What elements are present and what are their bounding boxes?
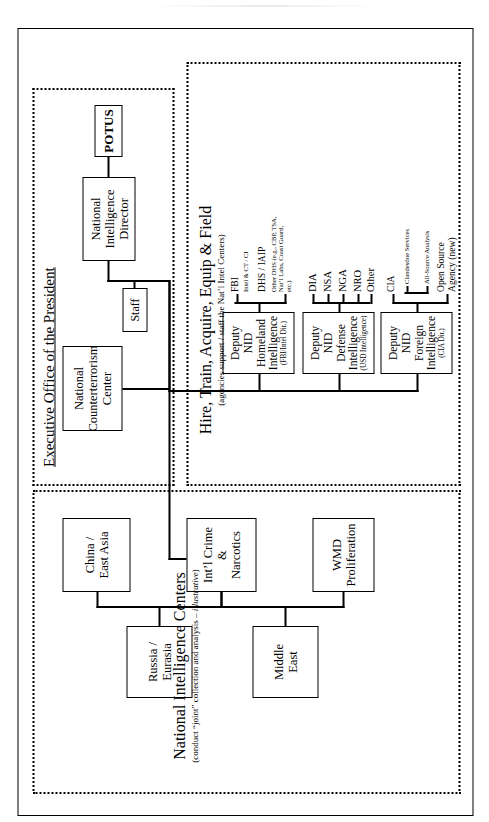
executive-office-title: Executive Office of the President xyxy=(40,267,57,467)
agencies-section-title: Hire, Train, Acquire, Equip & Field (age… xyxy=(196,170,225,470)
middle-east-label: Middle East xyxy=(271,644,299,680)
nic-title-text: National Intelligence Centers xyxy=(170,572,187,759)
center-box-middle-east[interactable]: Middle East xyxy=(252,626,318,698)
deputy-defense-label: Deputy NID Defense Intelligence (USD Int… xyxy=(308,315,368,371)
deputy-branch-homeland xyxy=(258,374,260,392)
dia-stub xyxy=(312,294,314,304)
nic-branch-crime xyxy=(220,592,222,608)
deputy-nid-foreign-intelligence-box[interactable]: Deputy NID Foreign Intelligence (CIA Dir… xyxy=(380,312,452,374)
all-source-stub xyxy=(426,286,428,294)
agency-label-nro[interactable]: NRO xyxy=(351,270,362,292)
agency-label-dhs-iaip[interactable]: DHS / IAIP xyxy=(256,247,266,292)
fbi-stub xyxy=(236,294,238,304)
nctc-label: National Counterterrorism Center xyxy=(71,345,113,431)
agency-label-nsa[interactable]: NSA xyxy=(321,271,332,292)
deputy-branch-foreign xyxy=(416,374,418,392)
agencies-subtitle: (agencies support / staff the Nat’l Inte… xyxy=(215,170,225,470)
agency-label-open-source-agency[interactable]: Open Source Agency (new) xyxy=(434,237,456,292)
russia-label: Russia / Eurasia xyxy=(145,642,173,682)
agency-label-dia[interactable]: DIA xyxy=(306,273,317,292)
chart-canvas: Executive Office of the President POTUS … xyxy=(0,0,489,822)
agency-label-clandestine-services[interactable]: Clandestine Services xyxy=(402,192,409,284)
potus-box[interactable]: POTUS xyxy=(94,105,122,157)
nic-subtitle: (conduct “joint” collection and analysis… xyxy=(189,546,199,786)
defense-bus-feed xyxy=(338,303,340,312)
nctc-connector xyxy=(121,388,169,390)
nro-stub xyxy=(357,294,359,304)
deputy-branch-defense xyxy=(338,374,340,392)
nctc-box[interactable]: National Counterterrorism Center xyxy=(62,346,122,431)
nic-branch-middle-east xyxy=(284,606,286,626)
china-label: China / East Asia xyxy=(82,532,110,579)
nid-trunk-drop xyxy=(107,280,169,282)
center-box-wmd-proliferation[interactable]: WMD Proliferation xyxy=(312,518,374,592)
agency-label-nga[interactable]: NGA xyxy=(336,269,347,292)
agency-detail-dhs: Other DHS (e.g., CBP, TSA, Nat’l Labs, C… xyxy=(269,214,291,292)
dhs-stub xyxy=(284,294,286,304)
agencies-title-text: Hire, Train, Acquire, Equip & Field xyxy=(196,206,213,434)
nic-branch-wmd xyxy=(342,592,344,608)
agency-label-defense-other[interactable]: Other xyxy=(364,268,375,292)
defense-children-bus xyxy=(312,303,370,305)
national-intelligence-centers-title: National Intelligence Centers (conduct “… xyxy=(170,546,199,786)
nsa-stub xyxy=(327,294,329,304)
nid-label: National Intelligence Director xyxy=(88,180,130,258)
homeland-bus-feed xyxy=(258,303,260,312)
potus-label: POTUS xyxy=(101,109,116,152)
staff-label: Staff xyxy=(128,298,141,321)
foreign-bus-feed xyxy=(416,303,418,312)
open-source-stub xyxy=(446,294,448,304)
nid-spine-horizontal xyxy=(107,260,109,282)
potus-nid-connector xyxy=(107,156,109,177)
clandestine-stub xyxy=(406,286,408,294)
deputy-foreign-label: Deputy NID Foreign Intelligence (CIA Dir… xyxy=(386,315,446,371)
foreign-children-bus xyxy=(392,303,448,305)
agency-label-fbi[interactable]: FBI xyxy=(229,277,239,292)
agency-detail-fbi: Intel & CT / CI xyxy=(241,182,248,292)
homeland-children-bus xyxy=(234,303,286,305)
scan-artifact xyxy=(150,5,380,7)
agency-label-all-source-analysis[interactable]: All-Source Analysis xyxy=(422,192,429,284)
deputy-homeland-label: Deputy NID Homeland Intelligence (FBI/In… xyxy=(228,315,288,371)
center-box-china-east-asia[interactable]: China / East Asia xyxy=(62,518,130,592)
staff-box[interactable]: Staff xyxy=(122,288,147,332)
nga-stub xyxy=(342,294,344,304)
nic-branch-china xyxy=(96,592,98,608)
nic-branch-russia xyxy=(158,606,160,626)
crime-label: Int’l Crime & Narcotics xyxy=(200,527,242,583)
defense-other-stub xyxy=(370,294,372,304)
cia-stub xyxy=(392,294,394,304)
deputy-nid-homeland-intelligence-box[interactable]: Deputy NID Homeland Intelligence (FBI/In… xyxy=(222,312,294,374)
deputy-nid-defense-intelligence-box[interactable]: Deputy NID Defense Intelligence (USD Int… xyxy=(302,312,374,374)
deputies-spine-feed xyxy=(168,280,170,392)
national-intelligence-director-box[interactable]: National Intelligence Director xyxy=(82,177,135,261)
wmd-label: WMD Proliferation xyxy=(329,523,357,586)
agency-label-cia[interactable]: CIA xyxy=(385,275,395,292)
